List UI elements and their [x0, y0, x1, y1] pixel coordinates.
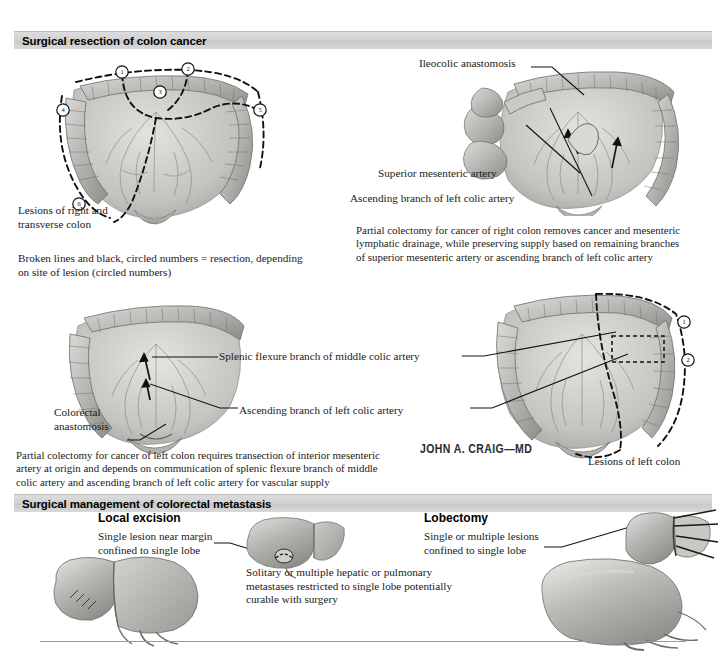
label-ascending-branch-left-colic-artery-mid: Ascending branch of left colic artery — [239, 404, 403, 418]
leader-ileocolic-anastomosis — [530, 63, 586, 97]
svg-text:5: 5 — [258, 106, 261, 113]
caption-broken-lines-circled-numbers: Broken lines and black, circled numbers … — [18, 252, 348, 279]
banner-surgical-resection: Surgical resection of colon cancer — [14, 31, 712, 49]
svg-text:2: 2 — [686, 356, 689, 363]
illustration-liver-lobectomy-main — [528, 556, 718, 652]
banner-title-top: Surgical resection of colon cancer — [14, 35, 207, 47]
label-superior-mesenteric-artery: Superior mesenteric artery — [378, 167, 497, 181]
leader-ascending-branch-left-colic-artery-top — [548, 106, 594, 198]
svg-text:1: 1 — [120, 68, 123, 75]
heading-lobectomy: Lobectomy — [424, 511, 488, 525]
leader-ascending-branch-left-colic-artery-mid-right — [470, 352, 630, 412]
leader-ascending-branch-left-colic-artery-mid-left — [150, 382, 240, 412]
label-ileocolic-anastomosis: Ileocolic anastomosis — [419, 57, 516, 71]
label-splenic-flexure-branch-middle-colic-artery: Splenic flexure branch of middle colic a… — [219, 350, 420, 364]
heading-local-excision: Local excision — [98, 511, 181, 525]
illustration-liver-local-excision — [52, 552, 242, 648]
banner-title-bottom: Surgical management of colorectal metast… — [14, 498, 271, 510]
leader-colorectal-anastomosis — [126, 422, 168, 442]
svg-text:3: 3 — [158, 88, 161, 95]
caption-partial-colectomy-left-colon: Partial colectomy for cancer of left col… — [16, 449, 496, 489]
caption-partial-colectomy-right-colon: Partial colectomy for cancer of right co… — [356, 224, 722, 264]
label-ascending-branch-left-colic-artery-top: Ascending branch of left colic artery — [350, 192, 514, 206]
illustration-right-colon-resection: 1 3 2 5 4 6 — [36, 52, 296, 227]
leader-splenic-flexure-branch — [152, 354, 220, 360]
label-lesions-right-transverse-colon: Lesions of right and transverse colon — [18, 204, 188, 231]
svg-text:1: 1 — [682, 318, 685, 325]
caption-solitary-multiple-metastases: Solitary or multiple hepatic or pulmonar… — [246, 566, 526, 607]
footer-divider — [40, 641, 686, 642]
label-lesions-left-colon: Lesions of left colon — [588, 455, 680, 469]
svg-text:2: 2 — [186, 65, 189, 72]
banner-colorectal-metastasis: Surgical management of colorectal metast… — [14, 494, 712, 512]
